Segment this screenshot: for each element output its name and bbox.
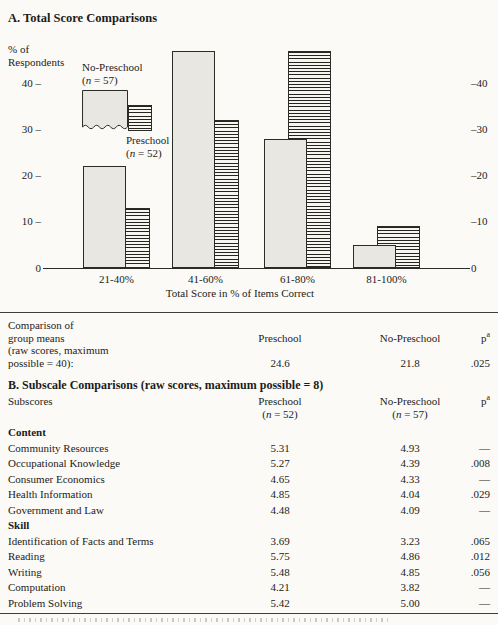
group-header-skill: Skill	[8, 518, 490, 534]
row-value-no-preschool: 4.04	[350, 487, 470, 503]
row-value-p: .065	[470, 534, 490, 550]
row-value-p: —	[470, 472, 490, 488]
row-label: Computation	[8, 580, 210, 596]
row-label: Problem Solving	[8, 596, 210, 612]
table-a-col-no-preschool: No-Preschool	[350, 332, 470, 345]
bar-no-preschool-61-80%	[264, 139, 307, 269]
x-axis-title: Total Score in % of Items Correct	[90, 287, 390, 299]
y-tick-right-0: 0	[471, 262, 477, 275]
row-value-preschool: 4.48	[210, 503, 350, 519]
row-label: Occupational Knowledge	[8, 456, 210, 472]
total-score-bar-chart: % of Respondents 40 –30 –20 –10 –0 –40–3…	[0, 40, 498, 312]
table-a-label-lines-1-2: Comparison of group means	[8, 319, 210, 344]
bar-no-preschool-41-60%	[172, 51, 215, 268]
y-axis-label: % of Respondents	[8, 43, 64, 69]
row-value-p: —	[470, 441, 490, 457]
row-value-p: .056	[470, 565, 490, 581]
row-value-p: .008	[470, 456, 490, 472]
category-label-41-60%: 41-60%	[171, 273, 241, 285]
row-value-preschool: 5.27	[210, 456, 350, 472]
x-axis-line	[43, 268, 470, 269]
row-value-p: .029	[470, 487, 490, 503]
row-value-preschool: 4.65	[210, 472, 350, 488]
section-a-title: A. Total Score Comparisons	[0, 10, 498, 26]
table-a-col-p: pa	[470, 332, 490, 345]
row-value-preschool: 5.75	[210, 549, 350, 565]
y-tick-right-10: –10	[471, 215, 488, 228]
table-a-value-no-preschool: 21.8	[350, 357, 470, 370]
header-p: pa	[470, 395, 490, 421]
header-subscores: Subscores	[8, 395, 210, 421]
row-label: Writing	[8, 565, 210, 581]
top-rule	[0, 312, 498, 313]
y-tick-left-0: 0	[36, 262, 42, 275]
bar-no-preschool-21-40%	[83, 166, 126, 268]
row-label: Health Information	[8, 487, 210, 503]
category-label-21-40%: 21-40%	[82, 273, 152, 285]
row-value-preschool: 5.42	[210, 596, 350, 612]
row-value-no-preschool: 4.93	[350, 441, 470, 457]
y-tick-left-10: 10 –	[22, 215, 41, 228]
y-tick-left-40: 40 –	[22, 77, 41, 90]
row-value-preschool: 5.31	[210, 441, 350, 457]
comparison-of-group-means-table: Comparison of group means Preschool No-P…	[0, 319, 498, 369]
bar-no-preschool-81-100%	[353, 245, 396, 268]
row-value-p: —	[470, 503, 490, 519]
category-label-61-80%: 61-80%	[263, 273, 333, 285]
row-label: Consumer Economics	[8, 472, 210, 488]
row-value-p: .012	[470, 549, 490, 565]
row-value-p: —	[470, 596, 490, 612]
table-a-col-preschool: Preschool	[210, 332, 350, 345]
y-tick-left-20: 20 –	[22, 169, 41, 182]
category-label-81-100%: 81-100%	[352, 273, 422, 285]
y-tick-right-40: –40	[471, 77, 488, 90]
header-no-preschool: No-Preschool (n = 57)	[350, 395, 470, 421]
group-header-content: Content	[8, 425, 490, 441]
header-preschool: Preschool (n = 52)	[210, 395, 350, 421]
y-tick-right-20: –20	[471, 169, 488, 182]
cut-off-footnote-text	[18, 618, 388, 622]
figure-page: A. Total Score Comparisons % of Responde…	[0, 0, 498, 625]
section-b-title: B. Subscale Comparisons (raw scores, max…	[0, 378, 498, 392]
legend-preschool-label: Preschool (n = 52)	[126, 134, 169, 159]
row-label: Reading	[8, 549, 210, 565]
bottom-rule	[0, 613, 498, 614]
row-value-no-preschool: 4.85	[350, 565, 470, 581]
row-label: Identification of Facts and Terms	[8, 534, 210, 550]
row-value-preschool: 4.85	[210, 487, 350, 503]
row-value-no-preschool: 3.23	[350, 534, 470, 550]
row-value-no-preschool: 3.82	[350, 580, 470, 596]
row-value-no-preschool: 4.86	[350, 549, 470, 565]
subscale-table-header: Subscores Preschool (n = 52) No-Preschoo…	[0, 395, 498, 421]
row-value-preschool: 5.48	[210, 565, 350, 581]
subscale-table-rows: ContentCommunity Resources5.314.93—Occup…	[0, 425, 498, 611]
y-tick-left-30: 30 –	[22, 123, 41, 136]
table-a-value-p: .025	[470, 357, 490, 370]
row-value-preschool: 4.21	[210, 580, 350, 596]
table-a-value-preschool: 24.6	[210, 357, 350, 370]
row-value-preschool: 3.69	[210, 534, 350, 550]
table-a-label-lines-3-4: (raw scores, maximum possible = 40):	[8, 344, 210, 369]
legend-preschool-swatch	[128, 105, 152, 131]
row-value-no-preschool: 4.09	[350, 503, 470, 519]
row-label: Community Resources	[8, 441, 210, 457]
y-tick-right-30: –30	[471, 123, 488, 136]
row-value-no-preschool: 4.39	[350, 456, 470, 472]
legend-no-preschool-swatch	[82, 90, 128, 136]
row-value-p: —	[470, 580, 490, 596]
row-value-no-preschool: 4.33	[350, 472, 470, 488]
row-label: Government and Law	[8, 503, 210, 519]
legend-no-preschool-label: No-Preschool (n = 57)	[82, 61, 143, 86]
row-value-no-preschool: 5.00	[350, 596, 470, 612]
